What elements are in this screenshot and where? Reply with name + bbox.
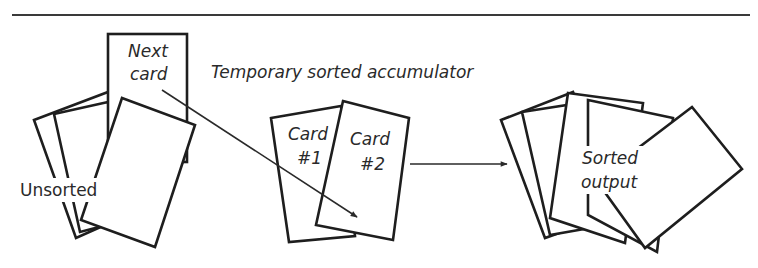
- next-card-label-line2: card: [130, 64, 168, 84]
- card-1-label-line2: #1: [297, 148, 322, 168]
- unsorted-pile: [34, 34, 195, 247]
- card-1-label-line1: Card: [288, 124, 328, 144]
- card-2-label-line2: #2: [360, 154, 385, 174]
- card-2-label-line1: Card: [350, 129, 390, 149]
- next-card-label-line1: Next: [128, 41, 169, 61]
- unsorted-label: Unsorted: [20, 180, 97, 200]
- sorted-label-line2: output: [581, 172, 638, 192]
- accumulator-cards: [271, 101, 409, 242]
- card-sort-diagram: Next card Unsorted Temporary sorted accu…: [0, 0, 758, 268]
- accumulator-label: Temporary sorted accumulator: [211, 62, 474, 82]
- sorted-label-line1: Sorted: [582, 148, 638, 168]
